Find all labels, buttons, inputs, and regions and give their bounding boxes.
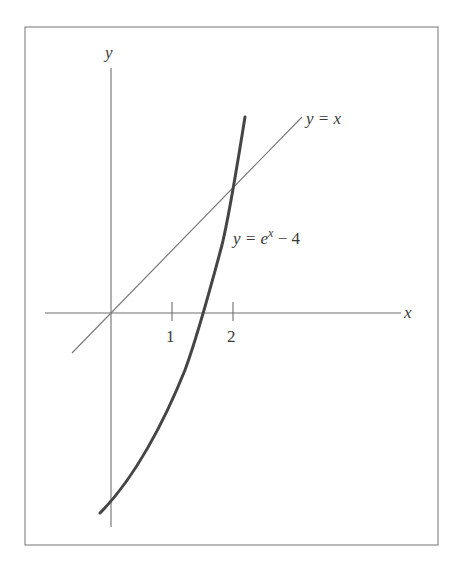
- x-axis-label: x: [403, 303, 412, 322]
- tick-label-1: 1: [166, 327, 175, 346]
- figure-frame: [25, 27, 438, 545]
- graph-figure: x y 1 2 y = x y = ex − 4: [0, 0, 459, 569]
- exponential-curve-label: y = ex − 4: [231, 226, 300, 248]
- identity-line-label: y = x: [304, 109, 342, 128]
- tick-label-2: 2: [227, 327, 236, 346]
- y-axis-label: y: [103, 43, 113, 62]
